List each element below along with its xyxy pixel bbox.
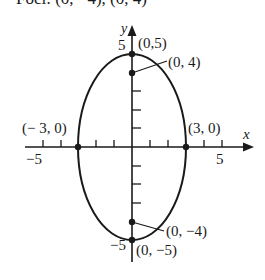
bottom-vertex-point: [129, 237, 135, 243]
top-focus-point: [129, 70, 135, 76]
diagram-canvas: Foci: (0, −4), (0, 4): [0, 0, 265, 280]
top-focus-label: (0, 4): [168, 54, 201, 71]
x-tick-label-5: 5: [216, 151, 224, 167]
top-vertex-label: (0,5): [138, 35, 167, 52]
y-axis-arrow-icon: [128, 25, 137, 36]
ellipse-diagram: Foci: (0, −4), (0, 4): [0, 0, 265, 280]
left-covertex-point: [75, 144, 81, 150]
x-axis-label: x: [242, 126, 250, 142]
y-axis-label: y: [119, 21, 128, 36]
x-axis-arrow-icon: [243, 143, 254, 152]
y-axis: [128, 25, 142, 262]
right-covertex-point: [183, 144, 189, 150]
bottom-focus-label: (0, −4): [166, 223, 207, 240]
right-covertex-label: (3, 0): [188, 120, 221, 137]
x-tick-label-neg5: −5: [26, 151, 42, 167]
left-covertex-label: (− 3, 0): [22, 120, 67, 137]
bottom-focus-point: [129, 219, 135, 225]
bottom-vertex-label: (0, −5): [136, 242, 177, 259]
leader-line-top-focus: [132, 61, 167, 73]
caption-text: Foci: (0, −4), (0, 4): [16, 0, 147, 8]
top-vertex-point: [129, 51, 135, 57]
y-tick-label-5: 5: [118, 37, 126, 53]
x-axis: [25, 140, 254, 152]
y-tick-label-neg5: −5: [110, 237, 126, 253]
